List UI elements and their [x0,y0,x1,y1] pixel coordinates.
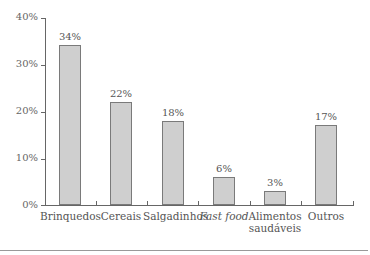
bar-salgadinhos [162,121,184,205]
category-label-line2: saudáveis [245,222,305,234]
x-tick [147,201,148,206]
y-tick [41,65,46,66]
x-tick [250,201,251,206]
value-label-outros: 17% [306,111,346,122]
x-tick [198,201,199,206]
y-tick-label-40: 40% [4,11,38,22]
bar-outros [315,125,337,205]
bar-cereais [110,102,132,205]
category-label-cereais: Cereais [91,210,151,222]
y-tick [41,205,46,206]
category-label-outros: Outros [296,210,356,222]
y-tick-label-10: 10% [4,152,38,163]
y-tick-label-20: 20% [4,105,38,116]
x-axis [45,205,354,206]
value-label-alimentos-saudaveis: 3% [255,177,295,188]
x-tick [353,201,354,206]
bar-alimentos-saudaveis [264,191,286,205]
bar-brinquedos [59,45,81,205]
y-tick [41,18,46,19]
bottom-divider [0,250,368,251]
value-label-fast-food: 6% [204,163,244,174]
value-label-brinquedos: 34% [50,31,90,42]
bar-chart: 40% 30% 20% 10% 0% 34% 22% 18% 6% 3% 17%… [0,0,370,255]
value-label-cereais: 22% [101,88,141,99]
y-tick-label-30: 30% [4,58,38,69]
bar-fast-food [213,177,235,205]
x-tick [96,201,97,206]
y-tick [41,112,46,113]
value-label-salgadinhos: 18% [153,107,193,118]
x-tick [301,201,302,206]
y-tick-label-0: 0% [4,199,38,210]
y-tick [41,159,46,160]
